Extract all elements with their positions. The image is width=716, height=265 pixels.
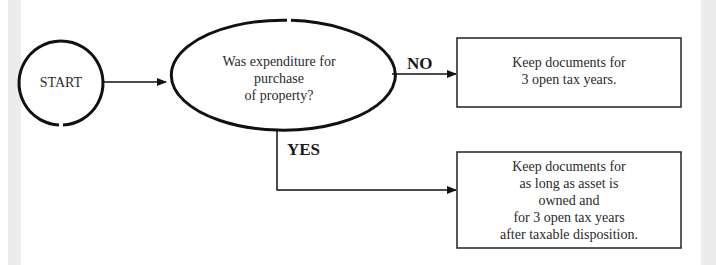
- start-label: START: [19, 74, 103, 91]
- outcome-yes-line: as long as asset is: [457, 175, 681, 192]
- outcome-no-text: Keep documents for 3 open tax years.: [457, 54, 681, 88]
- decision-line: Was expenditure for: [190, 53, 368, 70]
- decision-text: Was expenditure for purchase of property…: [190, 53, 368, 104]
- decision-line: purchase: [190, 70, 368, 87]
- outcome-yes-line: Keep documents for: [457, 158, 681, 175]
- outcome-yes-line: owned and: [457, 192, 681, 209]
- yes-branch-label: YES: [287, 140, 320, 160]
- outcome-no-line: 3 open tax years.: [457, 71, 681, 88]
- no-branch-label: NO: [407, 54, 433, 74]
- outcome-no-line: Keep documents for: [457, 54, 681, 71]
- arrow-yes: [277, 130, 456, 190]
- outcome-yes-line: for 3 open tax years: [457, 209, 681, 226]
- outcome-yes-text: Keep documents for as long as asset is o…: [457, 158, 681, 243]
- decision-line: of property?: [190, 87, 368, 104]
- outcome-yes-line: after taxable disposition.: [457, 226, 681, 243]
